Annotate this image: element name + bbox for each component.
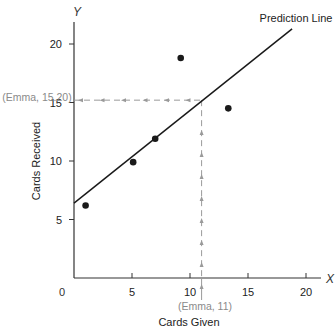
x-tick-label: 5 <box>129 286 135 298</box>
y-tick-label: 10 <box>50 155 62 167</box>
y-axis-title: Cards Received <box>30 122 42 200</box>
emma-y-annotation: (Emma, 15.20) <box>2 91 71 103</box>
up-arrow-icon <box>200 174 204 179</box>
x-tick-label: 15 <box>242 286 254 298</box>
data-point <box>130 159 137 166</box>
y-tick-label: 20 <box>50 38 62 50</box>
y-axis-letter: Y <box>73 5 82 19</box>
data-point <box>177 55 184 62</box>
prediction-line-path <box>74 29 292 203</box>
up-arrow-icon <box>200 152 204 157</box>
up-arrow-icon <box>200 218 204 223</box>
up-arrow-icon <box>200 284 204 289</box>
y-tick-label: 5 <box>56 214 62 226</box>
left-arrow-icon <box>164 98 169 102</box>
left-arrow-icon <box>78 98 83 102</box>
up-arrow-icon <box>200 262 204 267</box>
up-arrow-icon <box>200 130 204 135</box>
emma-x-annotation: (Emma, 11) <box>178 300 232 312</box>
prediction-line <box>74 29 292 203</box>
left-arrow-icon <box>143 98 148 102</box>
left-arrow-icon <box>100 98 105 102</box>
left-arrow-icon <box>186 98 191 102</box>
axes: 51015205101520 <box>50 22 321 298</box>
x-tick-label: 20 <box>300 286 312 298</box>
data-points <box>82 55 231 209</box>
left-arrow-icon <box>121 98 126 102</box>
emma-guide-lines <box>74 98 204 300</box>
prediction-line-label: Prediction Line <box>260 12 333 24</box>
x-axis-title: Cards Given <box>158 316 219 328</box>
origin-label: 0 <box>59 286 65 298</box>
x-tick-label: 10 <box>184 286 196 298</box>
up-arrow-icon <box>200 196 204 201</box>
x-axis-letter: X <box>325 272 335 286</box>
data-point <box>82 202 89 209</box>
data-point <box>225 105 232 112</box>
scatter-chart: 51015205101520 Y X 0 Cards Given Cards R… <box>0 0 336 329</box>
data-point <box>152 135 159 142</box>
up-arrow-icon <box>200 240 204 245</box>
